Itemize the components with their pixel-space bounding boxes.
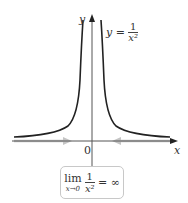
- lim-subscript: x→0: [66, 185, 80, 193]
- limit-box: lim x→0 1 x² = ∞: [60, 166, 124, 199]
- limit-numerator: 1: [85, 171, 95, 183]
- curve-label-prefix: y =: [106, 27, 125, 38]
- limit-operator: lim x→0: [64, 172, 81, 193]
- fraction-denominator: x²: [128, 33, 138, 43]
- x-axis-label: x: [174, 145, 180, 156]
- limit-result: = ∞: [98, 176, 120, 189]
- y-axis-label: y: [79, 14, 85, 25]
- x-axis: [12, 138, 178, 144]
- curve-equation-label: y = 1 x²: [106, 22, 138, 43]
- origin-label: 0: [84, 145, 91, 156]
- limit-denominator: x²: [85, 183, 95, 194]
- limit-fraction: 1 x²: [85, 171, 95, 194]
- curve-label-fraction: 1 x²: [128, 22, 138, 43]
- lim-text: lim: [64, 172, 81, 185]
- curve-left-branch: [14, 20, 83, 137]
